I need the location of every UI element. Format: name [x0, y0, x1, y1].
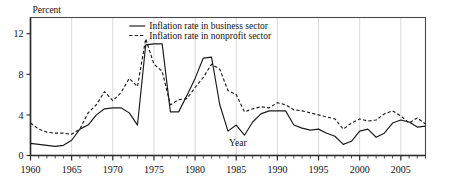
x-tick-label: 1975: [144, 164, 164, 175]
legend-label-2: Inflation rate in nonprofit sector: [149, 31, 272, 41]
series-line-2: [31, 39, 426, 134]
x-tick-label: 1960: [21, 164, 41, 175]
line-chart: 0481219601965197019751980198519901995200…: [0, 0, 450, 187]
x-tick-label: 2005: [391, 164, 411, 175]
y-tick-label: 0: [19, 150, 24, 161]
x-tick-label: 1995: [309, 164, 329, 175]
x-tick-label: 1980: [185, 164, 205, 175]
y-tick-label: 12: [14, 28, 24, 39]
x-tick-label: 1965: [62, 164, 82, 175]
y-tick-label: 4: [19, 110, 24, 121]
x-tick-label: 1985: [226, 164, 246, 175]
x-tick-label: 1970: [103, 164, 123, 175]
y-tick-label: 8: [19, 69, 24, 80]
y-axis-title: Percent: [33, 5, 62, 15]
x-tick-label: 2000: [350, 164, 370, 175]
chart-figure: 0481219601965197019751980198519901995200…: [0, 0, 450, 187]
x-axis-title: Year: [229, 138, 247, 148]
x-tick-label: 1990: [267, 164, 287, 175]
series-line-1: [31, 44, 426, 146]
legend-label-1: Inflation rate in business sector: [149, 21, 269, 31]
